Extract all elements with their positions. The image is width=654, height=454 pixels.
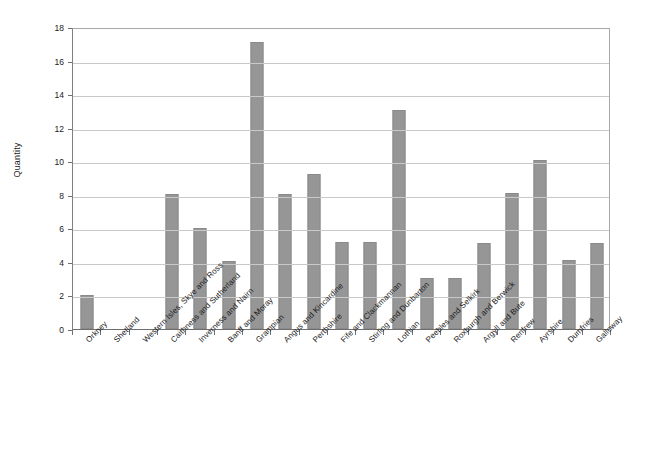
y-tick-label: 2	[36, 291, 64, 301]
gridline	[73, 230, 609, 231]
bar-slot	[554, 29, 582, 329]
bar-slot	[356, 29, 384, 329]
gridline	[73, 130, 609, 131]
bar[interactable]	[81, 295, 94, 329]
y-tick-mark	[68, 196, 72, 197]
bar-slot	[158, 29, 186, 329]
bar-chart: Quantity 024681012141618 OrkneyShetlandW…	[0, 0, 654, 454]
bar-slot	[73, 29, 101, 329]
y-tick-label: 6	[36, 224, 64, 234]
gridline	[73, 197, 609, 198]
bar-slot	[271, 29, 299, 329]
y-tick-mark	[68, 95, 72, 96]
gridline	[73, 63, 609, 64]
y-tick-mark	[68, 162, 72, 163]
y-tick-mark	[68, 28, 72, 29]
y-tick-label: 14	[36, 90, 64, 100]
y-tick-label: 18	[36, 23, 64, 33]
bar[interactable]	[279, 194, 292, 329]
y-tick-mark	[68, 229, 72, 230]
y-tick-mark	[68, 263, 72, 264]
gridline	[73, 96, 609, 97]
bar-slot	[101, 29, 129, 329]
y-tick-label: 10	[36, 157, 64, 167]
bar[interactable]	[590, 243, 603, 329]
bar-slot	[583, 29, 611, 329]
gridline	[73, 163, 609, 164]
y-tick-label: 12	[36, 124, 64, 134]
y-tick-label: 4	[36, 258, 64, 268]
bar-slot	[441, 29, 469, 329]
bar[interactable]	[562, 260, 575, 329]
bar[interactable]	[392, 110, 405, 329]
bar-slot	[526, 29, 554, 329]
gridline	[73, 297, 609, 298]
bar[interactable]	[251, 42, 264, 329]
bar[interactable]	[534, 160, 547, 329]
bar-slot	[300, 29, 328, 329]
bar-slot	[130, 29, 158, 329]
y-tick-label: 0	[36, 325, 64, 335]
y-axis-title: Quantity	[12, 120, 22, 200]
bar-slot	[243, 29, 271, 329]
gridline	[73, 264, 609, 265]
y-tick-mark	[68, 129, 72, 130]
y-tick-mark	[68, 296, 72, 297]
y-tick-label: 8	[36, 191, 64, 201]
y-tick-label: 16	[36, 57, 64, 67]
x-tick-mark	[72, 330, 73, 335]
y-tick-mark	[68, 62, 72, 63]
bar-slot	[469, 29, 497, 329]
